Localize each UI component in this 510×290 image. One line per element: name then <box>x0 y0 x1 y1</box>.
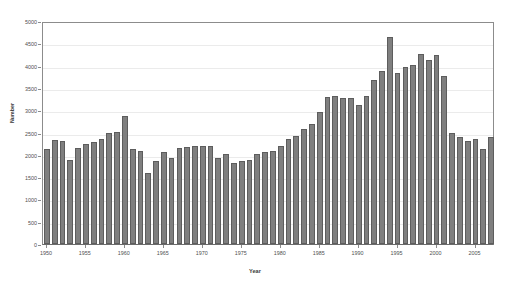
bar <box>138 151 144 244</box>
x-tick-label: 1975 <box>221 250 261 256</box>
bar <box>379 71 385 244</box>
x-tick-label: 1950 <box>26 250 66 256</box>
bar <box>75 148 81 244</box>
bar <box>293 136 299 244</box>
y-tick-label: 0 <box>0 242 37 248</box>
y-tick-label: 1500 <box>0 175 37 181</box>
bar <box>130 149 136 244</box>
y-tick-mark <box>38 44 41 45</box>
bar-series <box>43 23 493 244</box>
bar <box>480 149 486 244</box>
y-tick-mark <box>38 223 41 224</box>
y-tick-mark <box>38 200 41 201</box>
bar <box>177 148 183 244</box>
x-tick-label: 1980 <box>260 250 300 256</box>
bar <box>340 98 346 244</box>
bar <box>91 142 97 244</box>
x-tick-mark <box>163 245 164 248</box>
bar <box>410 65 416 244</box>
bar <box>192 146 198 244</box>
bar <box>231 163 237 244</box>
bar <box>325 97 331 244</box>
bar <box>387 37 393 244</box>
y-tick-label: 5000 <box>0 19 37 25</box>
y-tick-mark <box>38 178 41 179</box>
bar <box>99 139 105 244</box>
x-tick-mark <box>397 245 398 248</box>
bar <box>247 160 253 244</box>
plot-area <box>42 22 494 245</box>
bar <box>200 146 206 244</box>
bar <box>262 152 268 244</box>
x-tick-mark <box>46 245 47 248</box>
bar <box>364 96 370 244</box>
bar <box>122 116 128 244</box>
bar <box>449 133 455 245</box>
bar <box>223 154 229 244</box>
bar <box>60 141 66 244</box>
x-tick-mark <box>436 245 437 248</box>
bar <box>278 146 284 244</box>
y-tick-mark <box>38 67 41 68</box>
bar <box>208 146 214 244</box>
bar <box>473 139 479 244</box>
x-tick-mark <box>124 245 125 248</box>
x-axis-title: Year <box>0 268 510 274</box>
y-tick-label: 3500 <box>0 86 37 92</box>
x-tick-mark <box>475 245 476 248</box>
y-tick-label: 500 <box>0 219 37 225</box>
bar <box>317 112 323 244</box>
x-tick-label: 1995 <box>377 250 417 256</box>
bar <box>184 147 190 244</box>
bar <box>356 105 362 244</box>
bar <box>395 73 401 244</box>
bar <box>301 129 307 244</box>
bar <box>52 140 58 244</box>
bar <box>239 161 245 244</box>
bar <box>348 98 354 244</box>
x-tick-label: 1960 <box>104 250 144 256</box>
bar <box>371 80 377 244</box>
bar <box>67 160 73 244</box>
bar <box>426 60 432 244</box>
x-tick-label: 2000 <box>416 250 456 256</box>
bar <box>465 141 471 244</box>
bar <box>457 137 463 244</box>
y-tick-mark <box>38 134 41 135</box>
bar <box>403 67 409 245</box>
bar <box>145 173 151 244</box>
x-tick-label: 2005 <box>455 250 495 256</box>
bar <box>161 152 167 244</box>
bar <box>114 132 120 244</box>
x-tick-label: 1965 <box>143 250 183 256</box>
y-tick-mark <box>38 22 41 23</box>
x-tick-mark <box>280 245 281 248</box>
x-tick-mark <box>319 245 320 248</box>
x-axis-ticks: 1950195519601965197019751980198519901995… <box>42 245 494 267</box>
x-tick-mark <box>358 245 359 248</box>
bar <box>106 133 112 244</box>
bar <box>332 96 338 244</box>
x-tick-label: 1955 <box>65 250 105 256</box>
y-tick-label: 4500 <box>0 41 37 47</box>
x-tick-label: 1970 <box>182 250 222 256</box>
x-tick-label: 1990 <box>338 250 378 256</box>
y-axis-title: Number <box>9 83 15 143</box>
x-tick-mark <box>202 245 203 248</box>
bar-chart: Number 050010001500200025003000350040004… <box>0 0 510 290</box>
bar <box>286 139 292 244</box>
x-tick-mark <box>85 245 86 248</box>
bar <box>215 158 221 244</box>
y-tick-label: 2500 <box>0 130 37 136</box>
bar <box>254 154 260 244</box>
y-tick-label: 4000 <box>0 63 37 69</box>
bar <box>44 149 50 244</box>
bar <box>441 76 447 244</box>
y-tick-label: 3000 <box>0 108 37 114</box>
y-tick-mark <box>38 111 41 112</box>
bar <box>434 55 440 244</box>
bar <box>270 151 276 244</box>
bar <box>418 54 424 244</box>
y-tick-mark <box>38 89 41 90</box>
y-tick-label: 2000 <box>0 153 37 159</box>
